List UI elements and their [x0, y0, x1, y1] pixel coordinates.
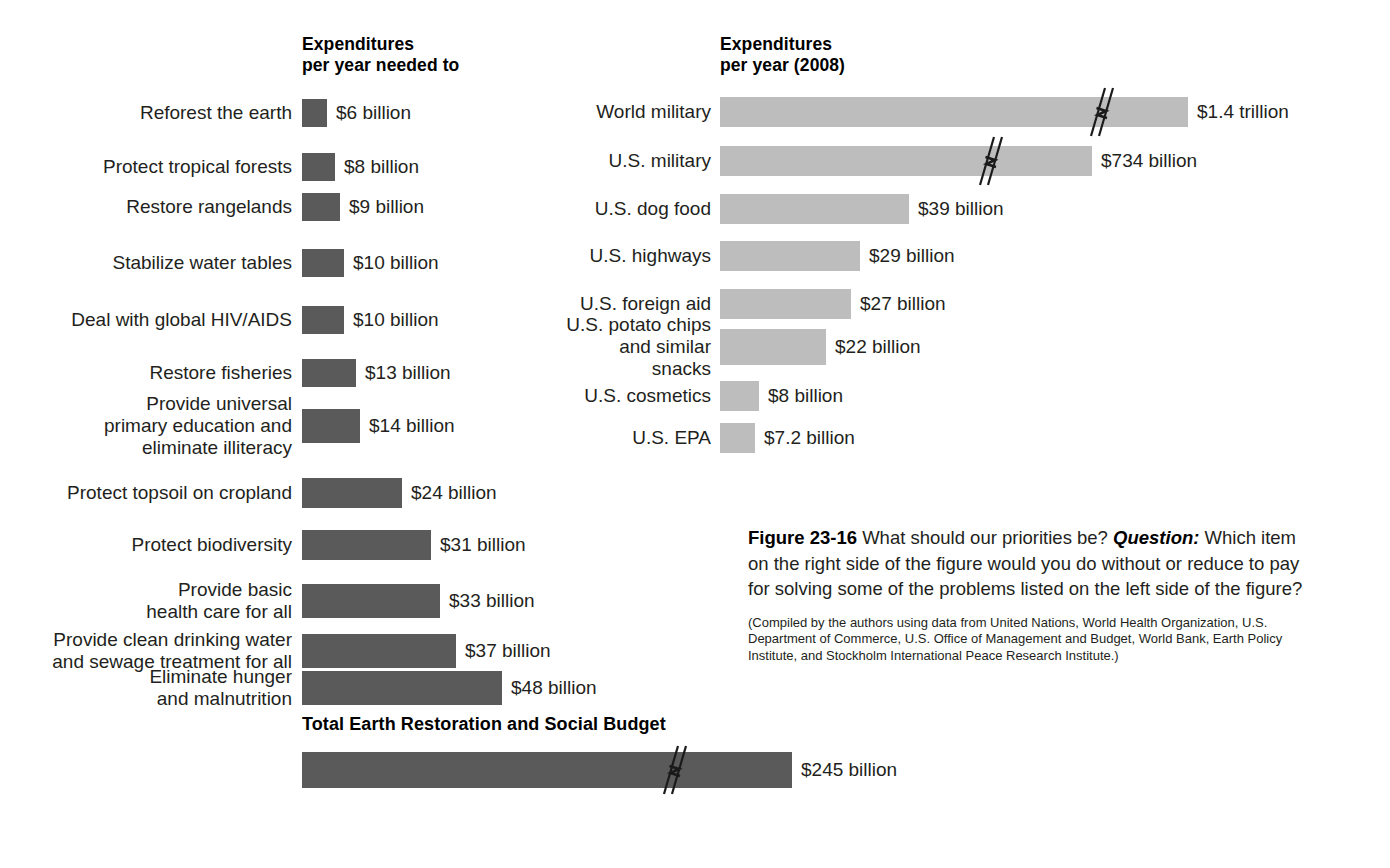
left-bar-wrapper: $9 billion [302, 193, 424, 221]
left-bar-row: Provide universal primary education and … [0, 405, 640, 447]
right-bar-label: U.S. potato chips and similar snacks [560, 314, 711, 380]
left-bar-label: Reforest the earth [140, 102, 292, 124]
left-bar [302, 306, 344, 334]
right-bar-row: U.S. potato chips and similar snacks$22 … [560, 325, 1390, 369]
right-bar-label: U.S. highways [590, 245, 711, 267]
right-bar-value: $7.2 billion [764, 427, 855, 449]
left-bar-label: Provide basic health care for all [146, 579, 292, 623]
left-bar-wrapper: $13 billion [302, 359, 451, 387]
right-bar-row: U.S. military$734 billion [560, 145, 1390, 177]
left-bar-wrapper: $8 billion [302, 153, 419, 181]
left-bar-label: Eliminate hunger and malnutrition [149, 666, 292, 710]
left-bar-value: $48 billion [511, 677, 597, 699]
right-column-heading: Expenditures per year (2008) [720, 34, 845, 76]
right-bar-wrapper: $734 billion [720, 146, 1197, 176]
left-bar-label: Protect topsoil on cropland [67, 482, 292, 504]
left-bar-row: Eliminate hunger and malnutrition$48 bil… [0, 667, 640, 709]
left-bar [302, 584, 440, 618]
right-bar-label: World military [596, 101, 711, 123]
right-bar [720, 329, 826, 365]
axis-break-icon [657, 744, 691, 796]
left-bar-row: Restore fisheries$13 billion [0, 358, 640, 388]
left-bar-value: $10 billion [353, 252, 439, 274]
left-bar-value: $33 billion [449, 590, 535, 612]
left-bar-label: Protect biodiversity [131, 534, 292, 556]
left-bar-value: $8 billion [344, 156, 419, 178]
right-bar-value: $29 billion [869, 245, 955, 267]
left-bar-label: Restore rangelands [126, 196, 292, 218]
right-bar-value: $27 billion [860, 293, 946, 315]
right-bar-wrapper: $22 billion [720, 329, 921, 365]
right-bar-row: World military$1.4 trillion [560, 96, 1390, 128]
left-bar-value: $24 billion [411, 482, 497, 504]
left-bar [302, 249, 344, 277]
left-bar-value: $10 billion [353, 309, 439, 331]
total-budget-title: Total Earth Restoration and Social Budge… [302, 714, 666, 735]
left-bar-wrapper: $33 billion [302, 584, 535, 618]
left-bar [302, 359, 356, 387]
right-bar-wrapper: $1.4 trillion [720, 97, 1289, 127]
right-bar-wrapper: $29 billion [720, 241, 955, 271]
right-bar [720, 194, 909, 224]
left-bar-label: Deal with global HIV/AIDS [71, 309, 292, 331]
left-bar [302, 153, 335, 181]
left-bar-wrapper: $48 billion [302, 671, 597, 705]
figure-number: Figure 23-16 [748, 527, 857, 548]
left-bar-row: Stabilize water tables$10 billion [0, 248, 640, 278]
left-bar-row: Deal with global HIV/AIDS$10 billion [0, 305, 640, 335]
axis-break-icon [1084, 86, 1118, 138]
total-bar-wrapper: $245 billion [302, 752, 897, 788]
left-bar-label: Provide universal primary education and … [104, 393, 292, 459]
left-bar-value: $6 billion [336, 102, 411, 124]
right-bar-wrapper: $39 billion [720, 194, 1004, 224]
left-bar-row: Protect tropical forests$8 billion [0, 152, 640, 182]
left-bar-row: Protect topsoil on cropland$24 billion [0, 478, 640, 508]
right-bar-label: U.S. dog food [595, 198, 711, 220]
right-bar-value: $734 billion [1101, 150, 1197, 172]
right-bar-value: $39 billion [918, 198, 1004, 220]
left-bar-label: Restore fisheries [149, 362, 292, 384]
left-bar-value: $14 billion [369, 415, 455, 437]
left-bar-row: Reforest the earth$6 billion [0, 98, 640, 128]
left-bar-wrapper: $6 billion [302, 99, 411, 127]
right-bar-row: U.S. EPA$7.2 billion [560, 422, 1390, 454]
total-bar-value: $245 billion [801, 759, 897, 781]
left-bar [302, 634, 456, 668]
right-bar-wrapper: $27 billion [720, 289, 946, 319]
right-bar-wrapper: $8 billion [720, 381, 843, 411]
total-bar [302, 752, 792, 788]
left-bar-row: Restore rangelands$9 billion [0, 192, 640, 222]
right-bar-wrapper: $7.2 billion [720, 423, 855, 453]
right-bar [720, 146, 1092, 176]
source-note: (Compiled by the authors using data from… [748, 615, 1308, 665]
left-bar [302, 671, 502, 705]
right-bar [720, 289, 851, 319]
right-bar [720, 423, 755, 453]
left-bar-value: $13 billion [365, 362, 451, 384]
right-bar-row: U.S. dog food$39 billion [560, 193, 1390, 225]
left-bar [302, 478, 402, 508]
left-bar-row: Provide basic health care for all$33 bil… [0, 580, 640, 622]
right-bar-label: U.S. cosmetics [584, 385, 711, 407]
question-label: Question: [1113, 527, 1199, 548]
left-bar-value: $31 billion [440, 534, 526, 556]
left-bar-value: $9 billion [349, 196, 424, 218]
right-bar-value: $8 billion [768, 385, 843, 407]
left-bar-wrapper: $24 billion [302, 478, 497, 508]
right-bar-label: U.S. foreign aid [580, 293, 711, 315]
left-column-heading: Expenditures per year needed to [302, 34, 459, 76]
left-bar-label: Stabilize water tables [112, 252, 292, 274]
axis-break-icon [973, 135, 1007, 187]
left-bar-row: Protect biodiversity$31 billion [0, 530, 640, 560]
right-bar-label: U.S. military [609, 150, 711, 172]
left-bar [302, 409, 360, 443]
left-bar [302, 99, 327, 127]
figure-caption-lead: What should our priorities be? [862, 527, 1108, 548]
right-bar-row: U.S. highways$29 billion [560, 240, 1390, 272]
left-bar-value: $37 billion [465, 640, 551, 662]
left-bar-wrapper: $10 billion [302, 306, 439, 334]
figure-caption: Figure 23-16 What should our priorities … [748, 525, 1304, 664]
left-bar-row: Provide clean drinking water and sewage … [0, 630, 640, 672]
right-bar-value: $22 billion [835, 336, 921, 358]
left-bar-wrapper: $14 billion [302, 409, 455, 443]
